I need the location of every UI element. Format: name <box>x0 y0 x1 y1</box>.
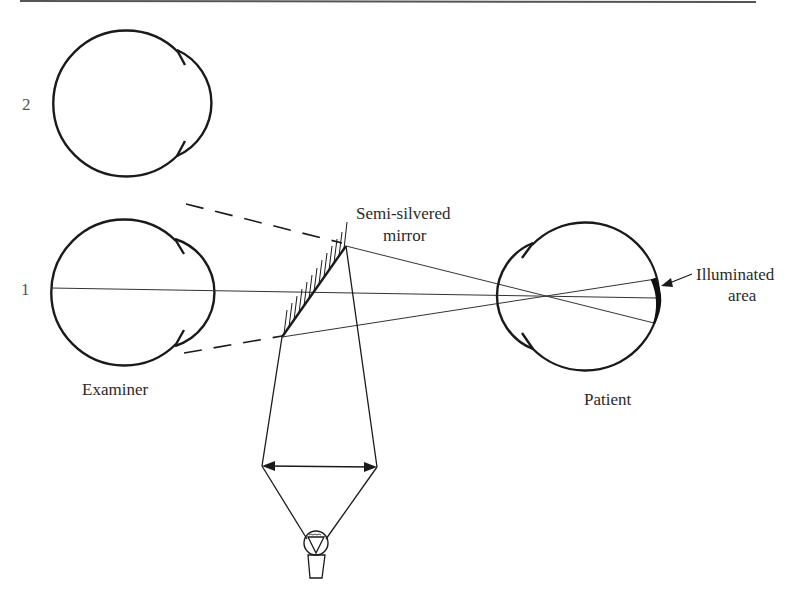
lower-illumination-ray <box>282 279 656 337</box>
light-bulb-icon <box>304 531 328 578</box>
lower-dashed-sightline <box>184 336 282 353</box>
examiner-eye-position-2 <box>53 31 211 177</box>
right-bulb-ray <box>326 467 377 539</box>
condensing-lens <box>262 461 377 472</box>
examiner-label: Examiner <box>82 380 148 399</box>
ophthalmoscope-diagram: 2 1 Semi-silvered mirror <box>0 0 801 598</box>
top-rule <box>20 1 756 2</box>
left-light-path <box>262 337 282 466</box>
examiner-eye-position-1 <box>51 220 214 366</box>
mirror-label-line1: Semi-silvered <box>356 204 451 223</box>
illuminated-label-line2: area <box>728 286 757 305</box>
position-2-label: 2 <box>22 95 31 114</box>
mirror-label-line2: mirror <box>383 226 427 245</box>
right-light-path <box>346 246 377 467</box>
patient-label: Patient <box>584 390 631 409</box>
illuminated-label-line1: Illuminated <box>696 265 775 284</box>
left-bulb-ray <box>262 466 307 539</box>
illuminated-area-pointer <box>661 274 692 287</box>
semi-silvered-mirror <box>282 222 347 337</box>
upper-dashed-sightline <box>186 204 342 243</box>
position-1-label: 1 <box>21 280 30 299</box>
